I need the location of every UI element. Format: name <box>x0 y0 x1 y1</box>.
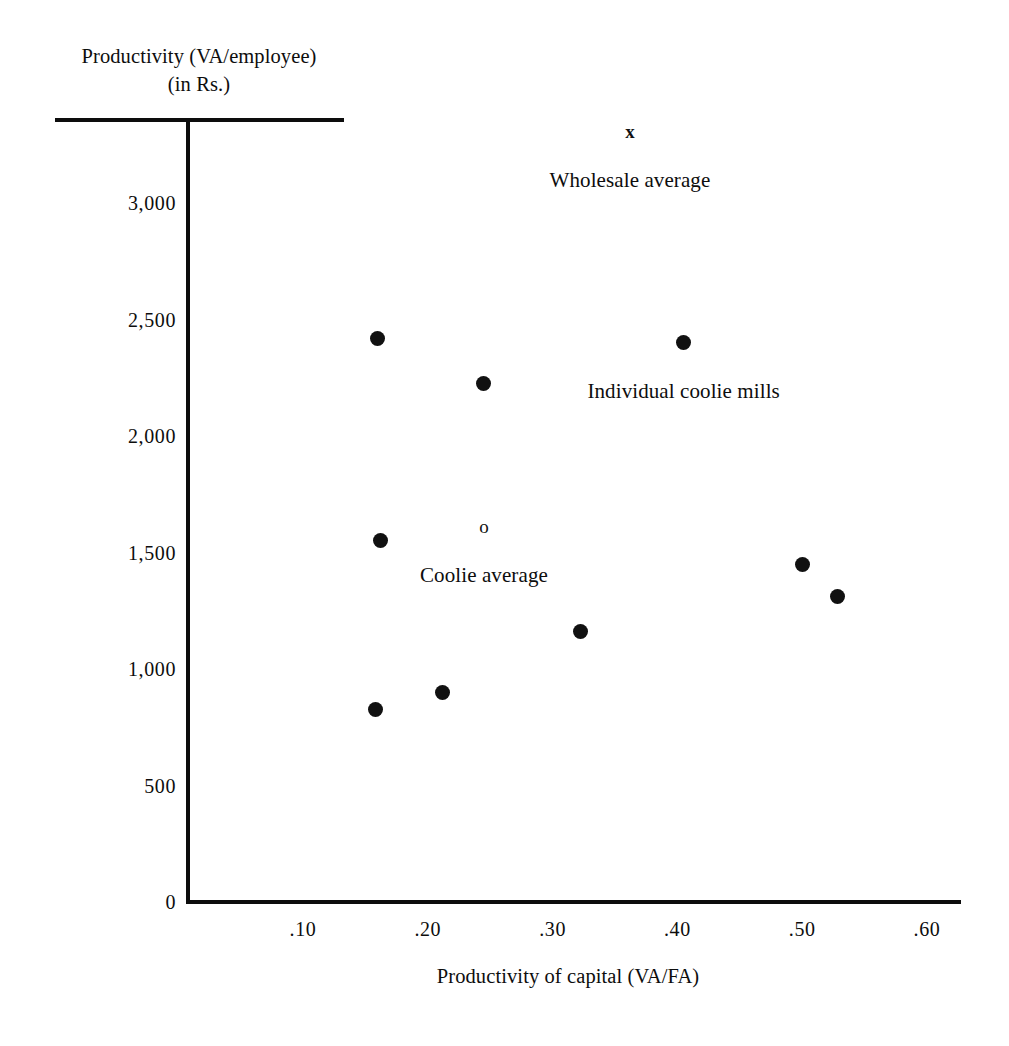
plot-annotation-label: Wholesale average <box>550 168 711 193</box>
data-point-individual-coolie-mill <box>368 702 383 717</box>
x-axis-tick-label: .20 <box>388 918 468 941</box>
y-axis-line <box>186 118 190 904</box>
scatter-chart-figure: Productivity (VA/employee) (in Rs.) 0500… <box>0 0 1009 1046</box>
x-axis-title: Productivity of capital (VA/FA) <box>188 965 948 988</box>
y-axis-tick-label: 500 <box>66 774 176 797</box>
y-axis-tick-label: 2,500 <box>66 308 176 331</box>
x-axis-tick-label: .10 <box>263 918 343 941</box>
data-point-individual-coolie-mill <box>370 331 385 346</box>
x-axis-tick-label: .60 <box>887 918 967 941</box>
y-axis-tick-label: 1,000 <box>66 658 176 681</box>
x-axis-line <box>186 900 961 904</box>
data-point-individual-coolie-mill <box>476 376 491 391</box>
data-point-individual-coolie-mill <box>573 624 588 639</box>
y-axis-tick-label: 0 <box>66 891 176 914</box>
data-point-individual-coolie-mill <box>435 685 450 700</box>
x-axis-tick-label: .50 <box>762 918 842 941</box>
data-point-coolie-average: o <box>479 516 489 535</box>
data-point-individual-coolie-mill <box>373 533 388 548</box>
y-axis-tick-labels: 05001,0001,5002,0002,5003,000 <box>58 0 176 1046</box>
y-axis-tick-label: 3,000 <box>66 192 176 215</box>
y-axis-tick-label: 2,000 <box>66 425 176 448</box>
data-point-individual-coolie-mill <box>795 557 810 572</box>
data-point-individual-coolie-mill <box>830 589 845 604</box>
x-axis-tick-label: .30 <box>513 918 593 941</box>
y-axis-tick-label: 1,500 <box>66 541 176 564</box>
data-point-individual-coolie-mill <box>676 335 691 350</box>
x-axis-tick-label: .40 <box>637 918 717 941</box>
plot-annotation-label: Coolie average <box>420 563 548 588</box>
plot-annotation-label: Individual coolie mills <box>587 379 779 404</box>
data-point-wholesale-average: x <box>625 121 635 140</box>
